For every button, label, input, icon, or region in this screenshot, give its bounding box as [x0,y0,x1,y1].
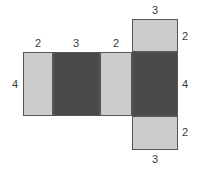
label-row-height-right: 4 [182,79,196,90]
face-front-dark [53,52,100,116]
face-bottom-light [132,116,178,150]
label-top-flap-width: 3 [138,5,172,16]
label-bottom-flap-height: 2 [182,127,196,138]
face-back-dark [132,52,178,116]
label-top-flap-height: 2 [182,31,196,42]
label-col3-width: 2 [99,38,133,49]
label-row-height-left: 4 [4,79,18,90]
label-bottom-flap-width: 3 [138,154,172,165]
face-top-light [132,19,178,52]
label-col1-width: 2 [21,38,55,49]
net-diagram-canvas: 323224423 [0,0,202,171]
face-right-light [100,52,132,116]
label-col2-width: 3 [59,38,93,49]
face-left-light [23,52,53,116]
